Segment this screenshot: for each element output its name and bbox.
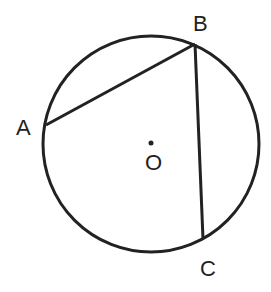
label-c: C bbox=[200, 256, 216, 281]
center-point bbox=[149, 141, 154, 146]
chord-ab bbox=[46, 44, 195, 125]
label-b: B bbox=[193, 11, 208, 36]
diagram-svg: A B C O bbox=[0, 0, 271, 292]
geometry-diagram: A B C O bbox=[0, 0, 271, 292]
chord-bc bbox=[195, 44, 203, 239]
label-a: A bbox=[16, 115, 31, 140]
label-o: O bbox=[145, 150, 162, 175]
